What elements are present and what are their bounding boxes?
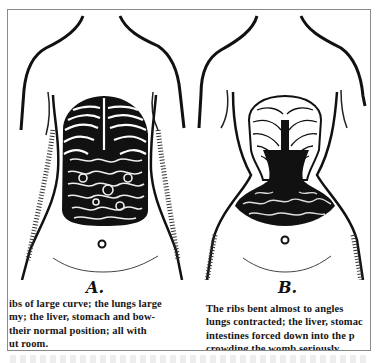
caption-line: The ribs bent almost to angles [206, 302, 363, 315]
caption-line: lungs contracted; the liver, stomac [206, 315, 363, 328]
figure-frame: A. B. ibs of large curve; the lungs larg… [7, 9, 371, 351]
caption-line: intestines forced down into the p [206, 329, 363, 342]
caption-line: ut room. [9, 337, 162, 350]
panel-label-b: B. [278, 280, 297, 296]
caption-line: ibs of large curve; the lungs large [9, 297, 162, 310]
caption-line: crowding the womb seriously. [206, 342, 363, 351]
torso-illustration-b [191, 10, 371, 280]
caption-b: The ribs bent almost to angles lungs con… [206, 302, 363, 351]
clipped-text-below [10, 355, 370, 363]
caption-line: my; the liver, stomach and bow- [9, 310, 162, 323]
panel-label-a: A. [86, 280, 104, 296]
caption-a: ibs of large curve; the lungs large my; … [9, 297, 162, 350]
caption-line: their normal position; all with [9, 324, 162, 337]
torso-illustration-a [8, 10, 193, 280]
